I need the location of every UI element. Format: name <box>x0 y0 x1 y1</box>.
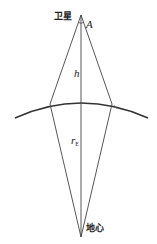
earth-surface-arc <box>15 103 148 118</box>
earth-center-label: 地心 <box>86 224 104 233</box>
right-radius-line <box>81 104 112 237</box>
left-radius-line <box>50 104 81 237</box>
satellite-label: 卫星 <box>54 12 72 21</box>
height-h-label: h <box>74 68 80 79</box>
earth-radius-label: rE <box>71 135 79 147</box>
earth-radius-subscript: E <box>75 141 79 147</box>
satellite-earth-geometry-diagram <box>0 0 157 244</box>
left-satellite-line <box>50 15 81 104</box>
angle-a-label: A <box>86 19 93 30</box>
